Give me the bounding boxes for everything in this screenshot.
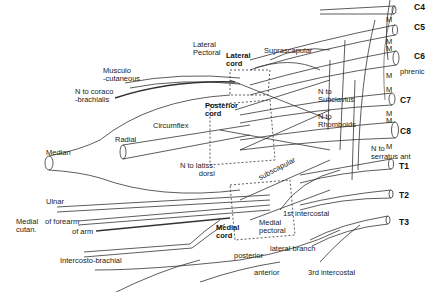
brachial-plexus-diagram: C4 C5 C6 C7 C8 T1 T2 T3 phrenic Lateral … bbox=[0, 0, 436, 292]
label-circumflex: Circumflex bbox=[153, 122, 188, 130]
label-of-forearm: of forearm bbox=[45, 218, 79, 226]
label-median: Median bbox=[46, 149, 71, 157]
muscle-marker: M bbox=[386, 72, 392, 80]
label-medial-cord: Medial cord bbox=[216, 224, 239, 240]
label-medial-pectoral: Medial pectoral bbox=[259, 219, 286, 235]
root-label-c6: C6 bbox=[414, 51, 425, 61]
label-lateral-cord: Lateral cord bbox=[226, 52, 251, 68]
muscle-marker: M bbox=[386, 143, 392, 151]
label-musculocutaneous: Musculo -cutaneous bbox=[103, 67, 140, 83]
root-label-c4: C4 bbox=[414, 2, 425, 12]
root-label-t2: T2 bbox=[399, 190, 409, 200]
label-radial: Radial bbox=[115, 136, 136, 144]
muscle-marker: M bbox=[386, 16, 392, 24]
label-posterior-cord: Posterior cord bbox=[205, 102, 238, 118]
muscle-marker: M bbox=[386, 117, 392, 125]
root-label-c7: C7 bbox=[400, 95, 411, 105]
muscle-marker: M bbox=[386, 86, 392, 94]
root-label-t1: T1 bbox=[399, 161, 409, 171]
label-of-arm: of arm bbox=[72, 228, 93, 236]
label-posterior: posterior bbox=[234, 252, 263, 260]
label-anterior: anterior bbox=[254, 269, 279, 277]
label-n-coracobrachialis: N to coraco -brachialis bbox=[75, 88, 113, 104]
root-label-c8: C8 bbox=[400, 126, 411, 136]
root-label-c5: C5 bbox=[414, 22, 425, 32]
label-n-rhomboids: N to Rhomboids bbox=[318, 113, 356, 129]
label-lateral-branch: lateral branch bbox=[270, 245, 315, 253]
label-ulnar: Ulnar bbox=[46, 198, 64, 206]
label-1st-intercostal: 1st intercostal bbox=[283, 210, 329, 218]
root-label-t3: T3 bbox=[399, 217, 409, 227]
label-3rd-intercostal: 3rd intercostal bbox=[308, 269, 355, 277]
label-suprascapular: Suprascapular bbox=[264, 47, 312, 55]
label-n-subclavius: N to Subclavius bbox=[318, 88, 354, 104]
label-medial-cutan: Medial cutan. bbox=[16, 218, 38, 234]
label-lateral-pectoral: Lateral Pectoral bbox=[193, 41, 221, 57]
label-phrenic: phrenic bbox=[400, 68, 425, 76]
muscle-marker: M bbox=[386, 45, 392, 53]
label-n-latissimus-dorsi: N to latiss. dorsi bbox=[180, 162, 215, 178]
label-intercostobrachial: Intercosto-brachial bbox=[60, 257, 122, 265]
